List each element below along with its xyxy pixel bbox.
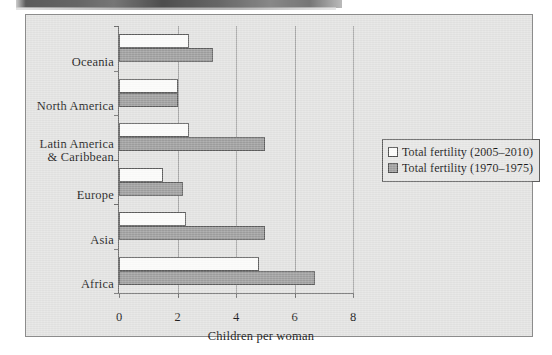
x-tick-label-0: 0 (104, 310, 134, 325)
bar-group (119, 123, 353, 151)
gridline-6 (295, 26, 296, 293)
x-tick-6 (295, 293, 296, 298)
y-tick-1 (114, 71, 119, 72)
bar (119, 168, 163, 182)
chart-legend: Total fertility (2005–2010) Total fertil… (382, 139, 540, 182)
legend-item-older: Total fertility (1970–1975) (388, 160, 533, 176)
x-tick-8 (353, 293, 354, 298)
bar (119, 123, 189, 137)
y-tick-4 (114, 204, 119, 205)
bar-group (119, 168, 353, 196)
x-axis-title: Children per woman (144, 329, 378, 344)
y-tick-0 (114, 26, 119, 27)
x-tick-label-2: 2 (163, 310, 193, 325)
bar (119, 48, 213, 62)
chart-figure-frame: OceaniaNorth AmericaLatin America & Cari… (25, 14, 533, 337)
bar (119, 79, 178, 93)
gridline-4 (236, 26, 237, 293)
bar (119, 257, 259, 271)
bar (119, 93, 178, 107)
scan-artifact-band-secondary (16, 7, 336, 10)
category-label: Europe (77, 189, 114, 202)
legend-swatch-older-icon (388, 163, 398, 173)
category-label: Africa (81, 278, 114, 291)
bar-group (119, 212, 353, 240)
legend-label-older: Total fertility (1970–1975) (402, 161, 533, 176)
x-tick-label-6: 6 (280, 310, 310, 325)
x-tick-0 (119, 293, 120, 298)
y-tick-5 (114, 249, 119, 250)
bar (119, 137, 265, 151)
bar (119, 226, 265, 240)
x-tick-label-8: 8 (338, 310, 368, 325)
x-tick-label-4: 4 (221, 310, 251, 325)
bar-group (119, 79, 353, 107)
category-label: North America (37, 100, 114, 113)
bar-group (119, 34, 353, 62)
legend-item-recent: Total fertility (2005–2010) (388, 144, 533, 160)
gridline-8 (353, 26, 354, 293)
x-tick-4 (236, 293, 237, 298)
y-tick-baseline (114, 293, 119, 294)
bar (119, 271, 315, 285)
category-label: Latin America & Caribbean (40, 138, 114, 164)
y-tick-2 (114, 115, 119, 116)
category-label: Oceania (72, 56, 114, 69)
bar-group (119, 257, 353, 285)
category-axis-labels: OceaniaNorth AmericaLatin America & Cari… (26, 40, 114, 307)
bar (119, 182, 183, 196)
legend-swatch-recent-icon (388, 147, 398, 157)
bar (119, 212, 186, 226)
plot-area (119, 26, 353, 293)
legend-label-recent: Total fertility (2005–2010) (402, 145, 533, 160)
category-label: Asia (90, 234, 114, 247)
bar (119, 34, 189, 48)
y-tick-3 (114, 160, 119, 161)
x-tick-2 (178, 293, 179, 298)
gridline-2 (178, 26, 179, 293)
